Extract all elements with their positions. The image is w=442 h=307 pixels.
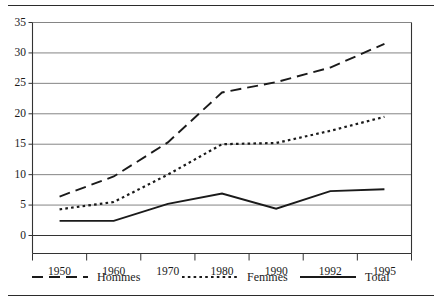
line-chart-plot — [0, 0, 442, 307]
gridlines — [33, 23, 412, 236]
series-line-hommes — [60, 44, 385, 197]
legend-label-femmes: Femmes — [247, 271, 288, 283]
y-tick-label-10: 10 — [2, 169, 26, 181]
chart-legend: HommesFemmesTotal — [32, 268, 412, 288]
y-tick-label-5: 5 — [2, 199, 26, 211]
y-tick-label-35: 35 — [2, 17, 26, 29]
y-tick-label-25: 25 — [2, 77, 26, 89]
legend-item-hommes[interactable]: Hommes — [32, 268, 140, 286]
data-series-layer — [60, 44, 385, 221]
legend-item-total[interactable]: Total — [300, 268, 390, 286]
y-tick-label-20: 20 — [2, 108, 26, 120]
series-line-femmes — [60, 117, 385, 210]
legend-swatch-dashed-icon — [32, 271, 88, 283]
legend-swatch-solid-icon — [300, 271, 356, 283]
legend-swatch-dotted-icon — [182, 271, 238, 283]
legend-item-femmes[interactable]: Femmes — [182, 268, 288, 286]
legend-label-hommes: Hommes — [97, 271, 140, 283]
y-tick-label-15: 15 — [2, 138, 26, 150]
chart-figure: 05101520253035 1950196019701980199019921… — [0, 0, 442, 307]
y-tick-label-30: 30 — [2, 47, 26, 59]
x-axis-ticks — [33, 254, 412, 261]
legend-label-total: Total — [365, 271, 390, 283]
y-tick-label-0: 0 — [2, 230, 26, 242]
bottom-rule — [8, 295, 434, 296]
